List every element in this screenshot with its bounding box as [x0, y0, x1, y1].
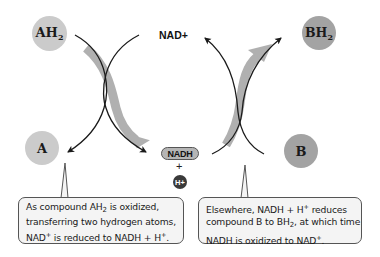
callout-reduction-line-1: Elsewhere, NADH + H+ reduces	[206, 201, 355, 216]
callout-oxidation-line-2: transferring two hydrogen atoms,	[26, 216, 177, 228]
nadh-label: NADH	[168, 149, 193, 159]
bh2-label: BH	[305, 25, 327, 40]
callout-reduction-line-3: NADH is oxidized to NAD+.	[206, 232, 355, 247]
callout-oxidation-line-3: NAD+ is reduced to NADH + H+.	[26, 229, 177, 244]
ah2-label: AH	[36, 25, 58, 40]
callout-left-pointer	[61, 163, 68, 198]
right-flow-arrow	[226, 44, 272, 145]
callout-reduction-line-2: compound B to BH2, at which time	[206, 216, 355, 231]
callout-oxidation: As compound AH2 is oxidized, transferrin…	[18, 197, 184, 244]
b-label: B	[296, 144, 307, 159]
a-label: A	[37, 141, 47, 156]
callout-right-pointer	[241, 165, 248, 198]
molecule-b: B	[284, 134, 318, 168]
nad-plus-label: NAD+	[159, 29, 188, 41]
plus-sign: +	[176, 160, 182, 172]
molecule-ah2: AH2	[32, 16, 67, 51]
nadh-pill: NADH	[161, 147, 199, 160]
molecule-bh2: BH2	[302, 16, 336, 50]
callout-oxidation-line-1: As compound AH2 is oxidized,	[26, 201, 177, 216]
callout-reduction: Elsewhere, NADH + H+ reduces compound B …	[198, 197, 362, 244]
h-plus-ion: H+	[173, 175, 187, 189]
left-flow-arrow	[86, 48, 151, 149]
molecule-a: A	[25, 131, 59, 165]
h-plus-label: H+	[175, 178, 185, 187]
